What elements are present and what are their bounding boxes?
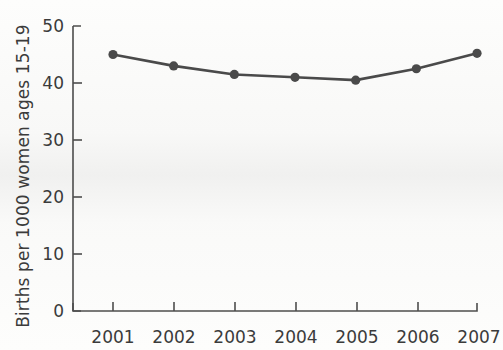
x-axis-ticks (113, 302, 418, 311)
data-point-2001 (108, 50, 117, 59)
chart-figure: Births per 1000 women ages 15-19 50 40 3… (0, 0, 503, 350)
data-point-2005 (351, 76, 360, 85)
data-point-2004 (290, 73, 299, 82)
x-axis-spine (73, 303, 477, 311)
data-point-2002 (169, 61, 178, 70)
y-axis-spine (73, 26, 81, 311)
data-point-2007 (472, 49, 481, 58)
data-point-2006 (412, 64, 421, 73)
y-axis-ticks (73, 83, 82, 254)
plot-area (0, 0, 503, 350)
data-point-2003 (230, 70, 239, 79)
